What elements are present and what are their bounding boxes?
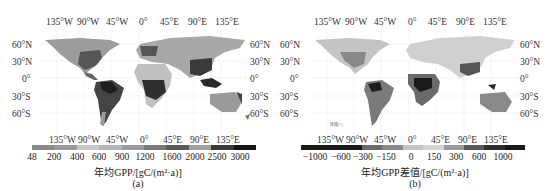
top-lon-label: 45°W — [106, 18, 128, 28]
lat-label-right: 30°N — [250, 58, 270, 68]
lat-label-right: 0° — [250, 75, 259, 85]
top-lon-label: 135°W — [46, 18, 73, 28]
colorbar-tick: −150 — [376, 152, 396, 162]
top-lon-label: 0° — [139, 18, 148, 28]
colorbar-a — [32, 145, 256, 150]
colorbar-tick: 150 — [427, 152, 441, 162]
lat-label-right: 60°N — [520, 41, 540, 51]
colorbar-tick: 0 — [409, 152, 414, 162]
top-lon-label: 90°W — [345, 18, 367, 28]
lat-label-right: 60°S — [250, 110, 269, 120]
panel-label: (a) — [0, 178, 276, 189]
panel-label: (b) — [277, 178, 553, 189]
lat-label-right: 30°S — [250, 93, 269, 103]
top-lon-label: 45°E — [160, 18, 179, 28]
colorbar-tick: −600 — [331, 152, 351, 162]
gpp-map — [40, 30, 250, 135]
panel-b: 135°W 90°W 45°W 0° 45°E 90°E 135°E 60°N … — [277, 0, 553, 191]
top-lon-label: 90°E — [188, 18, 207, 28]
lat-label-left: 0° — [22, 75, 31, 85]
top-lon-label: 90°E — [456, 18, 475, 28]
lat-label-left: 30°S — [280, 93, 299, 103]
colorbar-tick: 1200 — [136, 152, 155, 162]
lat-label-left: 60°N — [280, 41, 300, 51]
lat-label-left: 60°S — [280, 110, 299, 120]
colorbar-ticks-b: −1000 −600 −300 −150 0 150 300 600 1000 — [301, 152, 525, 164]
colorbar-tick: 600 — [92, 152, 106, 162]
lat-label-left: 30°N — [12, 58, 32, 68]
colorbar-tick: 1000 — [494, 152, 513, 162]
colorbar-title: 年均GPP/[gC/(m²·a)] — [0, 164, 276, 179]
colorbar-tick: 2500 — [208, 152, 227, 162]
gpp-difference-map — [310, 30, 520, 135]
top-lon-label: 45°W — [374, 18, 396, 28]
top-lon-label: 135°W — [314, 18, 341, 28]
top-lon-label: 135°E — [215, 18, 239, 28]
lat-label-left: 30°S — [12, 93, 31, 103]
lat-label-left: 30°N — [280, 58, 300, 68]
colorbar-tick: 48 — [27, 152, 37, 162]
top-lon-label: 0° — [408, 18, 417, 28]
colorbar-tick: 400 — [70, 152, 84, 162]
colorbar-tick: −1000 — [303, 152, 327, 162]
inset-xlabel: 纬度(°) — [330, 121, 342, 127]
colorbar-tick: 200 — [47, 152, 61, 162]
colorbar-tick: 600 — [472, 152, 486, 162]
top-lon-label: 135°E — [483, 18, 507, 28]
colorbar-tick: 1600 — [163, 152, 182, 162]
colorbar-ticks-a: 48 200 400 600 900 1200 1600 2000 2500 3… — [32, 152, 256, 164]
colorbar-tick: 2000 — [186, 152, 205, 162]
top-lon-label: 45°E — [428, 18, 447, 28]
lat-label-right: 60°N — [250, 41, 270, 51]
lat-label-right: 0° — [520, 75, 529, 85]
lat-label-left: 60°S — [12, 110, 31, 120]
colorbar-tick: −300 — [353, 152, 373, 162]
lat-label-right: 30°S — [520, 93, 539, 103]
lat-label-right: 60°S — [520, 110, 539, 120]
colorbar-tick: 3000 — [231, 152, 250, 162]
colorbar-title: 年均GPP差值/[gC/(m²·a)] — [277, 164, 553, 179]
colorbar-tick: 300 — [449, 152, 463, 162]
lat-label-left: 60°N — [12, 41, 32, 51]
top-lon-label: 90°W — [77, 18, 99, 28]
colorbar-tick: 900 — [115, 152, 129, 162]
panel-a: 135°W 90°W 45°W 0° 45°E 90°E 135°E 60°N … — [0, 0, 276, 191]
lat-label-right: 30°N — [520, 58, 540, 68]
lat-label-left: 0° — [290, 75, 299, 85]
colorbar-b — [301, 145, 525, 150]
